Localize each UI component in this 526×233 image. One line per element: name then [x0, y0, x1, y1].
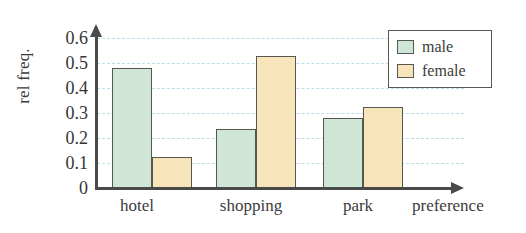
- x-tick-label-shopping: shopping: [196, 196, 306, 216]
- x-tick-label-park: park: [318, 196, 398, 216]
- bar-park-male: [323, 118, 363, 188]
- legend-swatch-male: [397, 40, 414, 54]
- legend-label-male: male: [422, 38, 453, 56]
- legend-swatch-female: [397, 64, 414, 78]
- y-tick-label: 0.4: [42, 79, 88, 97]
- y-axis-tick-labels: 0.6 0.5 0.4 0.3 0.2 0.1 0: [42, 0, 88, 233]
- y-tick-label: 0.2: [42, 129, 88, 147]
- legend-item-female: female: [397, 61, 466, 81]
- y-tick-label: 0.3: [42, 104, 88, 122]
- y-axis-line: [95, 33, 98, 189]
- y-axis-arrow-icon: [90, 24, 102, 37]
- x-axis-arrow-icon: [451, 182, 464, 194]
- bar-park-female: [363, 107, 403, 188]
- y-tick-label: 0.5: [42, 54, 88, 72]
- bar-hotel-male: [112, 68, 152, 188]
- legend: male female: [388, 30, 492, 88]
- y-tick-label: 0.1: [42, 154, 88, 172]
- bar-shopping-male: [216, 129, 256, 188]
- y-axis-label: rel freq.: [14, 31, 34, 121]
- legend-item-male: male: [397, 37, 453, 57]
- x-tick-label-hotel: hotel: [92, 196, 182, 216]
- y-tick-label: 0.6: [42, 29, 88, 47]
- legend-label-female: female: [422, 62, 466, 80]
- bar-shopping-female: [256, 56, 296, 189]
- x-axis-label: preference: [412, 196, 484, 216]
- x-axis-line: [95, 187, 453, 190]
- y-tick-label: 0: [42, 179, 88, 197]
- bar-hotel-female: [152, 157, 192, 188]
- bar-chart: rel freq. 0.6 0.5 0.4 0.3 0.2 0.1 0 hote…: [0, 0, 526, 233]
